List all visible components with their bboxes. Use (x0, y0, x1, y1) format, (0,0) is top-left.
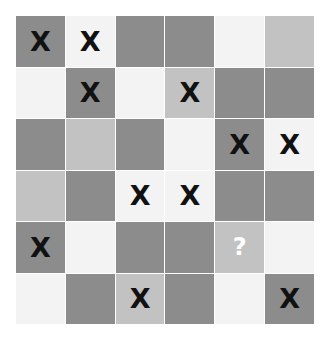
grid-cell-r3-c1[interactable] (66, 171, 115, 222)
grid-cell-r4-c4[interactable]: ? (215, 222, 264, 273)
grid-cell-r3-c5[interactable] (265, 171, 314, 222)
grid-cell-r3-c4[interactable] (215, 171, 264, 222)
grid-cell-r1-c1[interactable]: X (66, 68, 115, 119)
x-mark-icon: X (179, 79, 200, 106)
grid-cell-r4-c2[interactable] (116, 222, 165, 273)
grid-cell-r5-c2[interactable]: X (116, 274, 165, 325)
grid-cell-r3-c2[interactable]: X (116, 171, 165, 222)
grid-cell-r2-c1[interactable] (66, 119, 115, 170)
grid-cell-r1-c2[interactable] (116, 68, 165, 119)
grid-cell-r2-c3[interactable] (165, 119, 214, 170)
x-mark-icon: X (279, 285, 300, 312)
grid-cell-r5-c3[interactable] (165, 274, 214, 325)
x-mark-icon: X (30, 28, 51, 55)
grid-cell-r1-c5[interactable] (265, 68, 314, 119)
grid-cell-r1-c3[interactable]: X (165, 68, 214, 119)
grid-cell-r5-c1[interactable] (66, 274, 115, 325)
x-mark-icon: X (179, 182, 200, 209)
grid-cell-r0-c1[interactable]: X (66, 16, 115, 67)
grid-cell-r0-c0[interactable]: X (16, 16, 65, 67)
grid-cell-r1-c4[interactable] (215, 68, 264, 119)
grid-cell-r4-c3[interactable] (165, 222, 214, 273)
grid-cell-r0-c5[interactable] (265, 16, 314, 67)
grid-cell-r0-c4[interactable] (215, 16, 264, 67)
grid-cell-r5-c5[interactable]: X (265, 274, 314, 325)
x-mark-icon: X (229, 131, 250, 158)
x-mark-icon: X (30, 234, 51, 261)
grid-cell-r2-c5[interactable]: X (265, 119, 314, 170)
x-mark-icon: X (130, 182, 151, 209)
grid-cell-r3-c3[interactable]: X (165, 171, 214, 222)
grid-cell-r0-c3[interactable] (165, 16, 214, 67)
grid-cell-r2-c0[interactable] (16, 119, 65, 170)
grid-cell-r1-c0[interactable] (16, 68, 65, 119)
grid-cell-r3-c0[interactable] (16, 171, 65, 222)
grid-cell-r5-c4[interactable] (215, 274, 264, 325)
grid-cell-r0-c2[interactable] (116, 16, 165, 67)
grid-cell-r4-c5[interactable] (265, 222, 314, 273)
grid-cell-r4-c0[interactable]: X (16, 222, 65, 273)
x-mark-icon: X (130, 285, 151, 312)
x-mark-icon: X (279, 131, 300, 158)
grid-cell-r2-c4[interactable]: X (215, 119, 264, 170)
x-mark-icon: X (80, 79, 101, 106)
x-mark-icon: X (80, 28, 101, 55)
grid-cell-r2-c2[interactable] (116, 119, 165, 170)
grid-cell-r4-c1[interactable] (66, 222, 115, 273)
grid-cell-r5-c0[interactable] (16, 274, 65, 325)
question-mark-icon: ? (233, 235, 247, 259)
puzzle-grid: XXXXXXXXX?XX (16, 16, 314, 324)
